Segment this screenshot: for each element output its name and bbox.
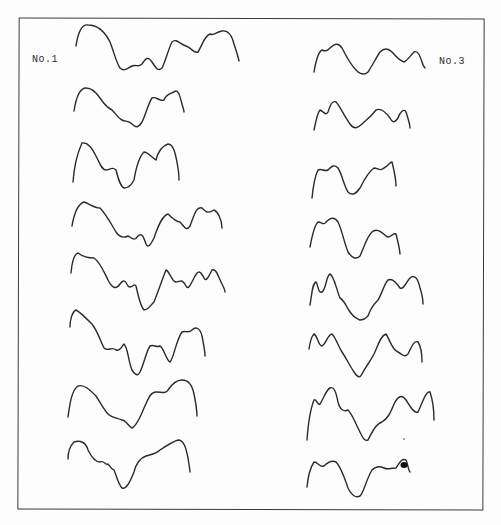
ink-speck bbox=[403, 438, 404, 439]
waveform-trace-right-6 bbox=[309, 334, 422, 377]
waveform-trace-right-5 bbox=[310, 274, 423, 320]
left-column-traces bbox=[68, 25, 239, 488]
waveform-trace-left-3 bbox=[73, 143, 179, 188]
waveform-trace-left-5 bbox=[71, 253, 225, 310]
waveform-traces bbox=[0, 0, 501, 525]
waveform-trace-left-8 bbox=[68, 440, 190, 488]
waveform-trace-right-8 bbox=[307, 459, 410, 496]
waveform-trace-right-4 bbox=[310, 218, 400, 258]
waveform-trace-left-6 bbox=[70, 310, 205, 375]
waveform-trace-right-1 bbox=[314, 44, 425, 74]
ink-blot bbox=[401, 462, 408, 468]
right-column-traces bbox=[307, 44, 434, 497]
waveform-trace-right-2 bbox=[314, 102, 410, 130]
waveform-trace-right-3 bbox=[312, 162, 396, 198]
waveform-trace-left-7 bbox=[68, 380, 197, 428]
waveform-trace-left-2 bbox=[74, 88, 184, 127]
waveform-trace-left-4 bbox=[72, 202, 222, 246]
waveform-trace-left-1 bbox=[76, 25, 239, 70]
waveform-trace-right-7 bbox=[307, 388, 434, 441]
